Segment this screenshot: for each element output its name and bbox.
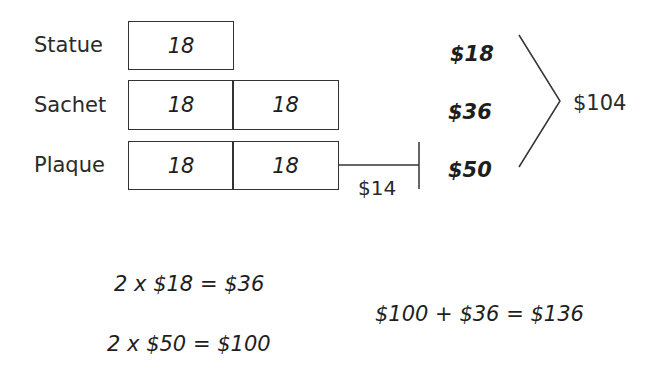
statue-unit-1: 18 (128, 21, 234, 70)
row-label-statue: Statue (34, 35, 103, 56)
equation-plaque-double: 2 x $50 = $100 (107, 334, 271, 355)
plaque-unit-1: 18 (128, 141, 234, 190)
row-label-sachet: Sachet (34, 95, 106, 116)
plaque-unit-2: 18 (232, 141, 339, 190)
total-sachet: $36 (448, 102, 492, 123)
total-plaque: $50 (448, 160, 492, 181)
equation-sum: $100 + $36 = $136 (375, 304, 584, 325)
plaque-extra-amount: $14 (358, 178, 396, 198)
row-label-plaque: Plaque (34, 155, 105, 176)
grouped-total: $104 (573, 93, 626, 114)
equation-statue-double: 2 x $18 = $36 (114, 274, 264, 295)
total-statue: $18 (450, 44, 494, 65)
sachet-unit-1: 18 (128, 80, 234, 130)
grouping-chevron (519, 35, 560, 167)
sachet-unit-2: 18 (232, 80, 339, 130)
